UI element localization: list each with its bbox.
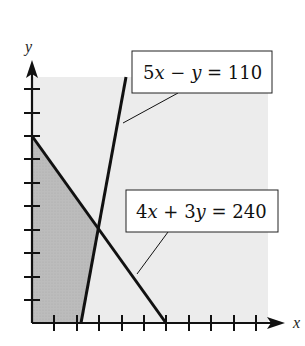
equation-label-2: 4x + 3y = 240 [126,190,278,232]
equation-label-1: 5x − y = 110 [132,51,272,93]
diagram-canvas: y x 5x − y = 110 4x + 3y = 240 [0,0,305,346]
x-axis-label: x [292,314,300,331]
y-axis-label: y [23,38,33,56]
svg-text:4x + 3y = 240: 4x + 3y = 240 [136,201,267,222]
svg-text:5x − y = 110: 5x − y = 110 [143,62,262,83]
